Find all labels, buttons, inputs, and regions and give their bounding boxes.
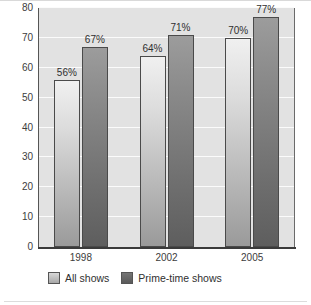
image-top-edge	[0, 0, 311, 1]
y-axis-tick-label: 20	[3, 182, 33, 192]
y-axis-tick-label: 0	[3, 242, 33, 252]
bar-value-label: 77%	[256, 5, 276, 15]
bar-1998-prime-time-shows: 67%	[82, 47, 108, 247]
x-axis-tick-labels: 199820022005	[38, 252, 295, 268]
bar-value-label: 67%	[85, 35, 105, 45]
y-axis-tick-labels: 01020304050607080	[0, 0, 33, 305]
y-axis-tick-label: 70	[3, 33, 33, 43]
y-axis-tick-label: 80	[3, 3, 33, 13]
bar-value-label: 71%	[170, 23, 190, 33]
bar-2002-prime-time-shows: 71%	[168, 35, 194, 247]
y-axis-tick-label: 10	[3, 212, 33, 222]
legend-label-prime-time-shows: Prime-time shows	[138, 272, 221, 284]
image-bottom-edge	[4, 301, 307, 302]
bar-2005-prime-time-shows: 77%	[253, 17, 279, 247]
bar-2005-all-shows: 70%	[225, 38, 251, 247]
x-axis-tick-label-2005: 2005	[241, 252, 263, 264]
bar-chart: 01020304050607080 56%67%64%71%70%77% 199…	[0, 0, 311, 305]
y-axis-tick-label: 60	[3, 63, 33, 73]
x-axis-tick-label-2002: 2002	[155, 252, 177, 264]
y-axis-tick-label: 30	[3, 152, 33, 162]
chart-legend: All shows Prime-time shows	[48, 272, 222, 284]
y-axis-tick-label: 40	[3, 123, 33, 133]
bar-value-label: 56%	[57, 68, 77, 78]
legend-item-all-shows: All shows	[48, 272, 109, 284]
bar-value-label: 64%	[142, 44, 162, 54]
bar-1998-all-shows: 56%	[54, 80, 80, 247]
legend-label-all-shows: All shows	[65, 272, 109, 284]
bar-value-label: 70%	[228, 26, 248, 36]
legend-item-prime-time-shows: Prime-time shows	[121, 272, 221, 284]
y-axis-tick-label: 50	[3, 93, 33, 103]
bar-2002-all-shows: 64%	[140, 56, 166, 247]
legend-swatch-all-shows	[48, 272, 60, 284]
legend-swatch-prime-time-shows	[121, 272, 133, 284]
x-axis-line	[38, 247, 296, 249]
bars-layer: 56%67%64%71%70%77%	[38, 8, 295, 247]
x-axis-tick-label-1998: 1998	[70, 252, 92, 264]
